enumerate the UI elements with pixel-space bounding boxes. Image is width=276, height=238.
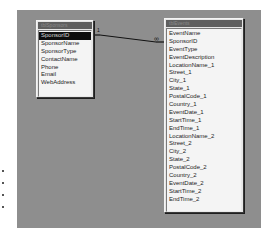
field-item[interactable]: ContactName <box>39 56 91 64</box>
table-window-sponsors[interactable]: tblSponsors SponsorID SponsorName Sponso… <box>36 20 94 98</box>
field-item[interactable]: EventDate_1 <box>167 109 241 117</box>
field-item[interactable]: Country_1 <box>167 101 241 109</box>
field-item[interactable]: EventType <box>167 46 241 54</box>
field-item[interactable]: StartTime_2 <box>167 188 241 196</box>
field-item[interactable]: SponsorID <box>39 32 91 40</box>
field-item[interactable]: EndTime_1 <box>167 125 241 133</box>
field-item[interactable]: PostalCode_2 <box>167 164 241 172</box>
page-margin-marks <box>2 170 8 218</box>
field-item[interactable]: City_1 <box>167 77 241 85</box>
field-item[interactable]: Email <box>39 71 91 79</box>
field-item[interactable]: SponsorID <box>167 38 241 46</box>
field-list[interactable]: EventName SponsorID EventType EventDescr… <box>166 28 242 212</box>
field-item[interactable]: Street_2 <box>167 140 241 148</box>
field-item[interactable]: EventName <box>167 30 241 38</box>
table-window-events[interactable]: tblEvents EventName SponsorID EventType … <box>164 18 244 213</box>
field-list[interactable]: SponsorID SponsorName SponsorType Contac… <box>38 30 92 97</box>
relationship-one-label: 1 <box>97 28 100 33</box>
field-item[interactable]: State_1 <box>167 85 241 93</box>
field-item[interactable]: Street_1 <box>167 69 241 77</box>
relationship-many-label: ∞ <box>154 36 159 41</box>
table-title[interactable]: tblEvents <box>166 20 242 27</box>
field-item[interactable]: City_2 <box>167 148 241 156</box>
field-item[interactable]: SponsorName <box>39 40 91 48</box>
field-item[interactable]: Country_2 <box>167 172 241 180</box>
field-item[interactable]: EventDate_2 <box>167 180 241 188</box>
relationships-window: 1 ∞ tblSponsors SponsorID SponsorName Sp… <box>0 0 276 238</box>
field-item[interactable]: LocationName_2 <box>167 133 241 141</box>
field-item[interactable]: PostalCode_1 <box>167 93 241 101</box>
field-item[interactable]: WebAddress <box>39 79 91 87</box>
field-item[interactable]: EventDescription <box>167 54 241 62</box>
field-item[interactable]: Phone <box>39 64 91 72</box>
field-item[interactable]: StartTime_1 <box>167 117 241 125</box>
field-item[interactable]: SponsorType <box>39 48 91 56</box>
field-item[interactable]: EndTime_2 <box>167 196 241 204</box>
field-item[interactable]: State_2 <box>167 156 241 164</box>
table-title[interactable]: tblSponsors <box>38 22 92 29</box>
field-item[interactable]: LocationName_1 <box>167 62 241 70</box>
